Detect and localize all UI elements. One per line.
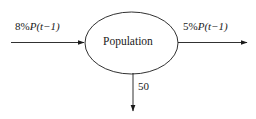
inflow-left-label: 8%P(t−1) (15, 21, 60, 32)
inflow-left-rate: 8% (15, 20, 30, 32)
population-flow-diagram: 8%P(t−1) 5%P(t−1) 50 Population (0, 0, 256, 119)
outflow-right-rate: 5% (183, 20, 198, 32)
population-node-label: Population (103, 36, 153, 48)
diagram-canvas (0, 0, 256, 119)
outflow-down-label: 50 (138, 81, 149, 92)
inflow-left-argument: (t−1) (36, 20, 59, 32)
outflow-right-label: 5%P(t−1) (183, 21, 228, 32)
outflow-right-argument: (t−1) (204, 20, 227, 32)
